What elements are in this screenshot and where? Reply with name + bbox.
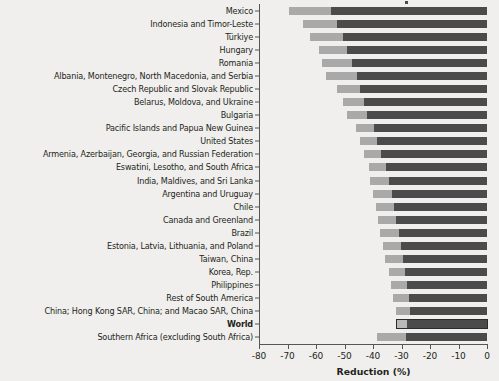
- category-label: Korea, Rep.: [209, 268, 253, 276]
- bar-segment-light: [383, 242, 402, 250]
- y-axis-tick: [255, 75, 259, 76]
- bar-segment-light: [322, 59, 352, 67]
- chart-row: Chile: [259, 200, 487, 213]
- category-label: Argentina and Uruguay: [162, 190, 253, 198]
- category-label: Hungary: [220, 46, 253, 54]
- chart-row: China; Hong Kong SAR, China; and Macao S…: [259, 305, 487, 318]
- chart-row: Southern Africa (excluding South Africa): [259, 331, 487, 344]
- stacked-bar: [393, 294, 487, 302]
- bar-segment-light: [391, 281, 407, 289]
- chart-row: Brazil: [259, 226, 487, 239]
- stacked-bar: [391, 281, 487, 289]
- bar-segment-light: [326, 72, 357, 80]
- chart-row: Estonia, Latvia, Lithuania, and Poland: [259, 239, 487, 252]
- category-label: Estonia, Latvia, Lithuania, and Poland: [107, 242, 253, 250]
- category-label: Philippines: [211, 281, 253, 289]
- y-axis-tick: [255, 219, 259, 220]
- bar-segment-dark: [405, 268, 487, 276]
- stacked-bar: [326, 72, 487, 80]
- x-axis-tick: [259, 344, 260, 349]
- chart-row: Rest of South America: [259, 292, 487, 305]
- bar-segment-light: [364, 150, 381, 158]
- y-axis-tick: [255, 49, 259, 50]
- bar-segment-dark: [394, 203, 487, 211]
- category-label: Albania, Montenegro, North Macedonia, an…: [54, 72, 253, 80]
- stacked-bar: [380, 229, 487, 237]
- x-axis-tick-label: -40: [366, 351, 381, 361]
- bar-segment-light: [289, 7, 331, 15]
- bar-segment-light: [319, 46, 348, 54]
- x-axis-tick-label: -80: [252, 351, 267, 361]
- bar-segment-dark: [399, 229, 487, 237]
- x-axis-tick: [459, 344, 460, 349]
- y-axis-tick: [255, 23, 259, 24]
- chart-row: Argentina and Uruguay: [259, 187, 487, 200]
- category-label: Türkiye: [225, 33, 253, 41]
- bar-segment-dark: [406, 333, 487, 341]
- stacked-bar: [289, 7, 487, 15]
- stacked-bar: [337, 85, 487, 93]
- x-axis-tick-label: -20: [423, 351, 438, 361]
- bar-segment-light: [360, 137, 377, 145]
- x-axis-tick: [316, 344, 317, 349]
- stacked-bar: [343, 98, 487, 106]
- category-label: Armenia, Azerbaijan, Georgia, and Russia…: [43, 150, 253, 158]
- bar-segment-dark: [347, 46, 487, 54]
- x-axis-tick-label: -30: [394, 351, 409, 361]
- bar-segment-light: [373, 190, 392, 198]
- x-axis-tick: [373, 344, 374, 349]
- bar-segment-dark: [357, 72, 487, 80]
- bar-segment-light: [310, 33, 343, 41]
- y-axis-tick: [255, 272, 259, 273]
- y-axis-tick: [255, 311, 259, 312]
- y-axis-tick: [255, 232, 259, 233]
- category-label: World: [227, 320, 253, 328]
- chart-row: India, Maldives, and Sri Lanka: [259, 174, 487, 187]
- stacked-bar: [356, 124, 487, 132]
- bar-segment-dark: [409, 294, 487, 302]
- category-label: Rest of South America: [166, 294, 253, 302]
- chart-row: Canada and Greenland: [259, 213, 487, 226]
- x-axis-tick-label: -60: [309, 351, 324, 361]
- stacked-bar: [360, 137, 487, 145]
- chart-row: Albania, Montenegro, North Macedonia, an…: [259, 69, 487, 82]
- y-axis-tick: [255, 324, 259, 325]
- y-axis-tick: [255, 245, 259, 246]
- y-axis-tick: [255, 128, 259, 129]
- y-axis-tick: [255, 206, 259, 207]
- stacked-bar: [383, 242, 487, 250]
- x-axis-tick-label: 0: [484, 351, 490, 361]
- x-axis-tick: [402, 344, 403, 349]
- category-label: Indonesia and Timor-Leste: [150, 20, 253, 28]
- chart-row: Belarus, Moldova, and Ukraine: [259, 96, 487, 109]
- category-label: Czech Republic and Slovak Republic: [113, 85, 253, 93]
- y-axis-tick: [255, 285, 259, 286]
- category-label: India, Maldives, and Sri Lanka: [137, 176, 253, 184]
- y-axis-tick: [255, 10, 259, 11]
- bar-segment-light: [376, 203, 395, 211]
- stacked-bar: [310, 33, 487, 41]
- chart-row: Armenia, Azerbaijan, Georgia, and Russia…: [259, 148, 487, 161]
- bar-segment-dark: [367, 111, 487, 119]
- bar-segment-dark: [337, 20, 487, 28]
- x-axis-tick: [345, 344, 346, 349]
- stacked-bar: [376, 203, 487, 211]
- bar-segment-dark: [360, 85, 487, 93]
- chart-row: Bulgaria: [259, 109, 487, 122]
- chart-row: Eswatini, Lesotho, and South Africa: [259, 161, 487, 174]
- bar-segment-light: [347, 111, 367, 119]
- y-axis-tick: [255, 36, 259, 37]
- category-label: Taiwan, China: [199, 255, 253, 263]
- bar-segment-dark: [343, 33, 487, 41]
- bar-segment-dark: [386, 163, 487, 171]
- chart-row: Hungary: [259, 43, 487, 56]
- chart-row: Indonesia and Timor-Leste: [259, 17, 487, 30]
- category-label: Romania: [219, 59, 253, 67]
- y-axis-tick: [255, 88, 259, 89]
- category-label: Canada and Greenland: [163, 216, 253, 224]
- chart-row: Taiwan, China: [259, 252, 487, 265]
- category-label: Southern Africa (excluding South Africa): [97, 333, 253, 341]
- chart-row: Mexico: [259, 4, 487, 17]
- category-label: Mexico: [226, 6, 253, 14]
- x-axis-tick-label: -10: [451, 351, 466, 361]
